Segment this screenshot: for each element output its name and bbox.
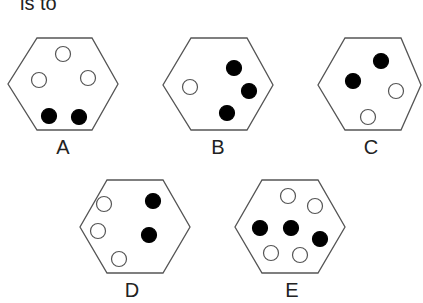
- hollow-circle: [293, 248, 308, 263]
- filled-circle: [220, 106, 235, 121]
- filled-circle: [346, 74, 361, 89]
- hollow-circle: [281, 189, 296, 204]
- option-b[interactable]: [163, 38, 273, 130]
- option-e[interactable]: [235, 180, 345, 273]
- option-label-b[interactable]: B: [211, 136, 224, 159]
- option-c[interactable]: [318, 38, 421, 130]
- hollow-circle: [56, 47, 71, 62]
- hollow-circle: [91, 224, 106, 239]
- hollow-circle: [308, 199, 323, 214]
- hexagon-shape: [163, 38, 273, 130]
- option-d[interactable]: [80, 180, 190, 273]
- hollow-circle: [32, 73, 47, 88]
- option-label-d[interactable]: D: [125, 279, 139, 302]
- filled-circle: [284, 221, 299, 236]
- filled-circle: [374, 54, 389, 69]
- option-a[interactable]: [8, 38, 118, 130]
- filled-circle: [253, 221, 268, 236]
- option-label-e[interactable]: E: [285, 279, 298, 302]
- hollow-circle: [112, 252, 127, 267]
- filled-circle: [227, 61, 242, 76]
- option-label-a[interactable]: A: [56, 136, 69, 159]
- filled-circle: [242, 84, 257, 99]
- filled-circle: [146, 194, 161, 209]
- hollow-circle: [264, 246, 279, 261]
- hollow-circle: [97, 197, 112, 212]
- filled-circle: [72, 110, 87, 125]
- hollow-circle: [81, 71, 96, 86]
- filled-circle: [42, 109, 57, 124]
- filled-circle: [313, 232, 328, 247]
- hollow-circle: [183, 80, 198, 95]
- filled-circle: [142, 228, 157, 243]
- option-label-c[interactable]: C: [364, 136, 378, 159]
- hollow-circle: [361, 110, 376, 125]
- hollow-circle: [389, 84, 404, 99]
